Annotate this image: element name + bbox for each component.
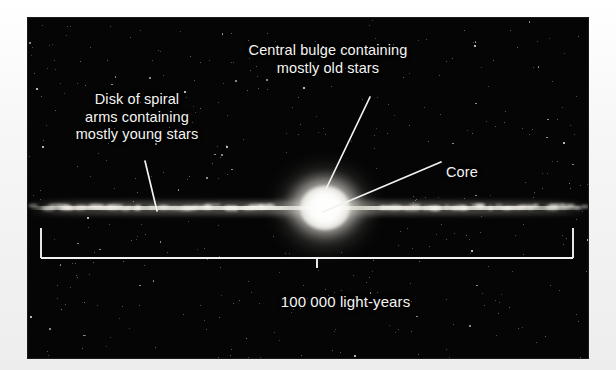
- disk-clump: [567, 204, 575, 208]
- disk-clump: [574, 206, 581, 210]
- star: [190, 56, 191, 57]
- disk-clump: [495, 204, 502, 208]
- star: [488, 266, 489, 267]
- disk-clump: [48, 204, 61, 207]
- star: [580, 185, 581, 186]
- star: [167, 252, 168, 253]
- star: [416, 316, 418, 318]
- star: [569, 183, 571, 185]
- disk-clump: [461, 206, 470, 210]
- star: [388, 104, 389, 105]
- disk-clump: [517, 205, 526, 209]
- star: [248, 281, 249, 282]
- disk-haze: [28, 201, 588, 215]
- disk-clump: [450, 206, 467, 211]
- star: [557, 119, 558, 120]
- star: [158, 50, 159, 51]
- star: [564, 53, 565, 54]
- disk-clump: [59, 206, 75, 210]
- disk-clump: [232, 206, 238, 211]
- star: [373, 260, 374, 261]
- star: [152, 60, 153, 61]
- star: [49, 328, 51, 330]
- star: [522, 327, 523, 328]
- bulge-midglow: [282, 170, 368, 246]
- disk-clump: [64, 206, 72, 210]
- star: [31, 55, 32, 56]
- star: [29, 156, 30, 157]
- star: [490, 195, 491, 196]
- star: [331, 86, 332, 87]
- star: [57, 285, 58, 286]
- disk-clump: [380, 206, 390, 209]
- star: [525, 182, 526, 183]
- star: [235, 80, 237, 82]
- star: [279, 340, 280, 341]
- star: [119, 318, 120, 319]
- disk-clump: [581, 205, 588, 208]
- star: [518, 328, 519, 329]
- star: [495, 300, 496, 301]
- star: [341, 252, 342, 253]
- disk-clump: [256, 206, 267, 209]
- star: [243, 139, 244, 140]
- scale-bracket: [41, 228, 573, 268]
- disk-clump: [430, 206, 441, 211]
- star: [470, 253, 471, 254]
- star: [153, 280, 155, 282]
- star: [137, 192, 138, 193]
- label-disk-line3: mostly young stars: [42, 126, 232, 144]
- star: [341, 290, 342, 291]
- star: [106, 160, 107, 161]
- star: [473, 42, 474, 43]
- star: [114, 188, 115, 189]
- star: [200, 305, 201, 306]
- star: [486, 121, 487, 122]
- star: [586, 271, 587, 272]
- star: [375, 38, 376, 39]
- star: [523, 254, 524, 255]
- disk-clump: [457, 205, 466, 208]
- disk-clump: [502, 206, 511, 211]
- star: [90, 47, 91, 48]
- star: [77, 243, 79, 245]
- star: [206, 177, 208, 179]
- star: [446, 349, 447, 350]
- star: [155, 347, 156, 348]
- star: [392, 258, 393, 259]
- star: [187, 179, 188, 180]
- star: [274, 332, 275, 333]
- star: [47, 68, 48, 69]
- star: [409, 125, 410, 126]
- star: [226, 146, 228, 148]
- star: [559, 290, 560, 291]
- star: [332, 350, 333, 351]
- disk-clump: [201, 206, 214, 209]
- star: [574, 134, 575, 135]
- star: [452, 143, 454, 145]
- star: [424, 107, 425, 108]
- star: [398, 245, 399, 246]
- star: [547, 258, 548, 259]
- star: [285, 253, 286, 254]
- star: [522, 128, 523, 129]
- bulge-equatorial-flare: [264, 192, 386, 226]
- star: [466, 235, 467, 236]
- core-leader-line: [323, 162, 441, 212]
- star: [98, 153, 99, 154]
- star: [194, 80, 195, 81]
- star: [563, 244, 564, 245]
- star: [266, 79, 268, 81]
- star: [335, 329, 336, 330]
- star: [33, 195, 34, 196]
- disk-clump: [121, 207, 129, 212]
- star: [231, 169, 233, 171]
- disk-clump: [248, 204, 265, 209]
- star: [145, 234, 146, 235]
- star: [552, 81, 553, 82]
- star: [476, 285, 478, 287]
- star: [496, 335, 497, 336]
- star: [562, 235, 563, 236]
- star: [334, 331, 335, 332]
- label-central-bulge-line1: Central bulge containing: [198, 42, 458, 60]
